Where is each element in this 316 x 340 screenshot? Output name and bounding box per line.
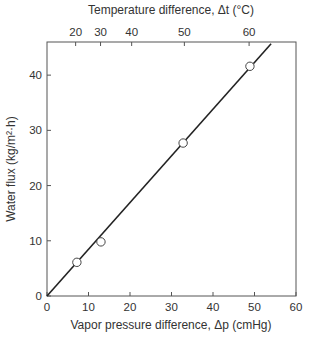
top-axis-ticks: 2030405060 <box>69 26 255 46</box>
plot-border <box>47 42 296 296</box>
fit-line <box>47 44 271 296</box>
x-tick-label: 60 <box>290 301 303 313</box>
chart-svg: 0102030405060 010203040 2030405060 Vapor… <box>0 0 316 340</box>
top-tick-label: 30 <box>94 26 107 38</box>
data-point <box>246 62 254 70</box>
y-tick-label: 0 <box>36 290 42 302</box>
plot-frame <box>47 42 296 296</box>
x-tick-label: 10 <box>82 301 95 313</box>
top-tick-label: 60 <box>243 26 256 38</box>
x-axis-title: Vapor pressure difference, Δp (cmHg) <box>71 318 272 332</box>
y-axis-title: Water flux (kg/m²·h) <box>4 116 18 222</box>
data-point <box>73 258 81 266</box>
data-series <box>47 44 271 296</box>
chart-container: 0102030405060 010203040 2030405060 Vapor… <box>0 0 316 340</box>
y-tick-label: 30 <box>29 124 42 136</box>
x-tick-label: 0 <box>44 301 50 313</box>
top-tick-label: 40 <box>125 26 138 38</box>
top-axis-title: Temperature difference, Δt (°C) <box>88 3 254 17</box>
x-tick-label: 30 <box>165 301 178 313</box>
top-tick-label: 20 <box>69 26 82 38</box>
top-tick-label: 50 <box>178 26 191 38</box>
y-tick-label: 20 <box>29 180 42 192</box>
data-point <box>97 238 105 246</box>
y-axis-ticks: 010203040 <box>29 69 51 302</box>
y-tick-label: 10 <box>29 235 42 247</box>
data-point <box>179 139 187 147</box>
x-tick-label: 20 <box>124 301 137 313</box>
x-axis-ticks: 0102030405060 <box>44 292 303 313</box>
x-tick-label: 50 <box>248 301 261 313</box>
x-tick-label: 40 <box>207 301 220 313</box>
y-tick-label: 40 <box>29 69 42 81</box>
